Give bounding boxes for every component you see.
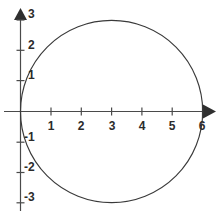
y-axis-label-neg-2: -2 — [24, 161, 35, 173]
y-axis-label-1: 1 — [28, 69, 35, 81]
x-axis-label-4: 4 — [139, 120, 146, 132]
x-axis-label-3: 3 — [109, 120, 116, 132]
x-axis-label-6: 6 — [199, 120, 206, 132]
y-axis-label-2: 2 — [28, 39, 35, 51]
y-axis-label-3: 3 — [28, 8, 35, 20]
y-axis-arrow-icon — [14, 8, 27, 20]
plot-figure: 3 2 1 -1 -2 -3 1 2 3 4 5 6 — [0, 0, 221, 217]
y-axis-label-neg-3: -3 — [24, 191, 35, 203]
cartesian-plot — [0, 0, 221, 217]
x-axis-label-1: 1 — [48, 120, 55, 132]
x-axis-label-5: 5 — [169, 120, 176, 132]
x-axis-label-2: 2 — [78, 120, 85, 132]
y-axis-label-neg-1: -1 — [24, 131, 35, 143]
x-axis-arrow-icon — [203, 105, 216, 119]
